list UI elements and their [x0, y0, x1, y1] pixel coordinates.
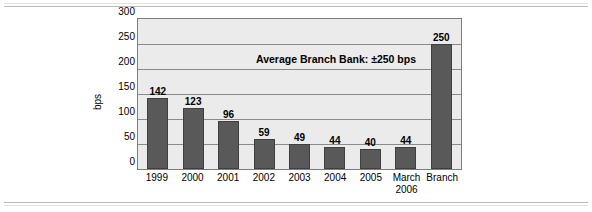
bar: 49 [289, 144, 310, 169]
bar-value-label: 59 [258, 127, 269, 138]
bar: 250 [431, 44, 452, 169]
page-rule-bottom [4, 202, 588, 203]
y-tick-label: 50 [109, 132, 135, 142]
page-rule-faint-top [4, 3, 588, 4]
bar-value-label: 40 [365, 137, 376, 148]
bar: 59 [254, 139, 275, 169]
bar-slot: 40 [353, 19, 388, 169]
bar: 44 [395, 147, 416, 169]
bar-value-label: 44 [329, 135, 340, 146]
bar-slot: 123 [175, 19, 210, 169]
y-tick-label: 0 [109, 157, 135, 167]
x-tick-label: 2000 [175, 172, 211, 200]
bar: 96 [218, 121, 239, 169]
x-tick-label-line: 1999 [139, 172, 175, 184]
x-tick-label-line: Branch [424, 172, 460, 184]
plot-area: 142 123 96 59 [137, 18, 462, 170]
x-tick-label: Branch [424, 172, 460, 200]
x-tick-label: March 2006 [389, 172, 425, 200]
bar-slot: 96 [211, 19, 246, 169]
y-tick-label: 250 [109, 32, 135, 42]
bar: 123 [183, 108, 204, 169]
x-tick-label: 2004 [317, 172, 353, 200]
bar-chart: bps 300 250 200 150 100 50 0 142 [95, 12, 475, 198]
x-tick-label: 2005 [353, 172, 389, 200]
page-rule-faint-bottom [4, 205, 588, 206]
x-tick-label: 2003 [282, 172, 318, 200]
bar-slot: 44 [317, 19, 352, 169]
y-tick-label: 150 [109, 82, 135, 92]
x-tick-label: 2002 [246, 172, 282, 200]
bar-slot: 142 [140, 19, 175, 169]
chart-page: bps 300 250 200 150 100 50 0 142 [0, 0, 592, 212]
x-tick-label-line: 2002 [246, 172, 282, 184]
x-tick-label-line: March [389, 172, 425, 184]
x-tick-label-line: 2000 [175, 172, 211, 184]
chart-annotation: Average Branch Bank: ±250 bps [256, 53, 416, 65]
y-tick-label: 300 [109, 7, 135, 17]
x-tick-label: 1999 [139, 172, 175, 200]
bar-value-label: 123 [185, 96, 202, 107]
bar-slot: 59 [246, 19, 281, 169]
x-tick-label-line: 2003 [282, 172, 318, 184]
bar-value-label: 142 [149, 86, 166, 97]
bar-value-label: 49 [294, 132, 305, 143]
bar-slot: 49 [282, 19, 317, 169]
x-tick-label-line: 2001 [210, 172, 246, 184]
bar: 44 [324, 147, 345, 169]
x-tick-label-line: 2006 [389, 184, 425, 196]
bar-value-label: 250 [433, 32, 450, 43]
bar-slot: 44 [388, 19, 423, 169]
bar-series: 142 123 96 59 [138, 19, 461, 169]
x-tick-label: 2001 [210, 172, 246, 200]
y-axis-tick-labels: 300 250 200 150 100 50 0 [109, 12, 135, 172]
bar-slot: 250 [424, 19, 459, 169]
y-tick-label: 200 [109, 57, 135, 67]
bar-value-label: 44 [400, 135, 411, 146]
bar: 142 [147, 98, 168, 169]
y-tick-label: 100 [109, 107, 135, 117]
bar: 40 [360, 149, 381, 169]
x-tick-label-line: 2004 [317, 172, 353, 184]
x-tick-label-line: 2005 [353, 172, 389, 184]
page-rule-top [4, 6, 588, 7]
x-axis-tick-labels: 1999 2000 2001 2002 2003 2004 2005 March… [137, 172, 462, 200]
bar-value-label: 96 [223, 109, 234, 120]
